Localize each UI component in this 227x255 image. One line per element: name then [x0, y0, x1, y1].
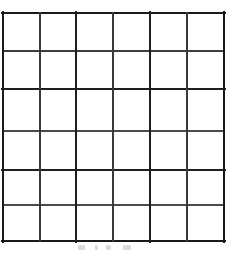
grid-cell[interactable]: [76, 89, 113, 131]
grid-cell[interactable]: [113, 51, 150, 89]
grid-cell[interactable]: [3, 13, 40, 51]
grid-cell[interactable]: [3, 51, 40, 89]
grid-svg: [0, 0, 227, 255]
grid-figure: [0, 0, 227, 255]
grid-cell[interactable]: [187, 131, 224, 170]
grid-cell[interactable]: [3, 205, 40, 241]
grid-cell[interactable]: [76, 51, 113, 89]
grid-cell[interactable]: [187, 51, 224, 89]
grid-cell[interactable]: [40, 89, 76, 131]
grid-cell[interactable]: [187, 13, 224, 51]
grid-cell[interactable]: [3, 170, 40, 205]
grid-cell[interactable]: [76, 13, 113, 51]
grid-cell[interactable]: [40, 51, 76, 89]
grid-cell[interactable]: [187, 89, 224, 131]
grid-cell[interactable]: [150, 205, 187, 241]
grid-cell[interactable]: [187, 170, 224, 205]
grid-cell[interactable]: [187, 205, 224, 241]
grid-cell[interactable]: [150, 51, 187, 89]
grid-cell[interactable]: [150, 131, 187, 170]
grid-cell[interactable]: [40, 205, 76, 241]
grid-cell[interactable]: [150, 89, 187, 131]
grid-cell[interactable]: [76, 131, 113, 170]
grid-cell[interactable]: [150, 170, 187, 205]
grid-cell[interactable]: [3, 89, 40, 131]
grid-cell[interactable]: [150, 13, 187, 51]
grid-cell[interactable]: [3, 131, 40, 170]
grid-cell[interactable]: [113, 205, 150, 241]
grid-cell[interactable]: [113, 13, 150, 51]
grid-cell[interactable]: [113, 131, 150, 170]
grid-cell[interactable]: [76, 170, 113, 205]
grid-cell[interactable]: [40, 13, 76, 51]
grid-cell[interactable]: [40, 170, 76, 205]
grid-cell[interactable]: [113, 170, 150, 205]
grid-cell[interactable]: [76, 205, 113, 241]
grid-cell[interactable]: [40, 131, 76, 170]
grid-cell[interactable]: [113, 89, 150, 131]
